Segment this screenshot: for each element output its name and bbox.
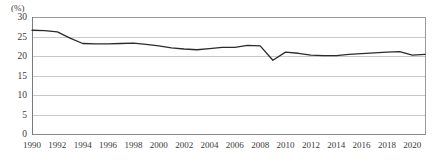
- x-tick-label: 2018: [378, 140, 396, 150]
- x-tick-label: 2016: [353, 140, 371, 150]
- gridline-0: [32, 134, 425, 135]
- y-tick-label: 15: [0, 71, 27, 81]
- x-tick-label: 2008: [251, 140, 269, 150]
- x-tick-label: 2010: [277, 140, 295, 150]
- y-tick-label: 25: [0, 32, 27, 42]
- y-tick-label: 5: [0, 110, 27, 120]
- plot-right-border: [425, 17, 426, 135]
- series-line-1: [32, 30, 425, 60]
- x-tick-label: 1996: [99, 140, 117, 150]
- x-tick-label: 1992: [48, 140, 66, 150]
- x-tick-label: 2012: [302, 140, 320, 150]
- x-tick-label: 1994: [74, 140, 92, 150]
- x-tick-label: 2020: [403, 140, 421, 150]
- x-tick-label: 2002: [175, 140, 193, 150]
- line-chart: (%) 302520151050 19901992199419961998200…: [0, 0, 436, 160]
- y-axis-unit-label: (%): [11, 3, 25, 13]
- x-tick-label: 2006: [226, 140, 244, 150]
- y-tick-label: 0: [0, 129, 27, 139]
- y-tick-label: 30: [0, 12, 27, 22]
- x-tick-label: 2014: [327, 140, 345, 150]
- x-tick-label: 1990: [23, 140, 41, 150]
- x-tick-label: 1998: [124, 140, 142, 150]
- x-tick-label: 2000: [150, 140, 168, 150]
- series-line-group: [32, 17, 425, 134]
- y-tick-label: 10: [0, 90, 27, 100]
- x-tick-label: 2004: [200, 140, 218, 150]
- y-tick-label: 20: [0, 51, 27, 61]
